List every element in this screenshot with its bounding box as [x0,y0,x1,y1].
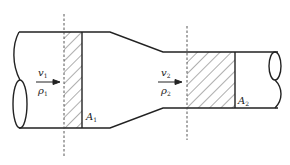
hatched-region-2 [187,52,235,108]
velocity-label-2: v2 [161,68,170,81]
area-label-2: A2 [238,96,249,109]
pipe-drawing [0,0,290,165]
density-label-2: ρ2 [161,86,171,99]
hatched-region-1 [64,32,82,128]
velocity-label-1: v1 [38,68,47,81]
density-label-1: ρ1 [38,86,48,99]
area-label-1: A1 [86,112,97,125]
pipe-flow-diagram: v1 ρ1 A1 v2 ρ2 A2 [0,0,290,165]
